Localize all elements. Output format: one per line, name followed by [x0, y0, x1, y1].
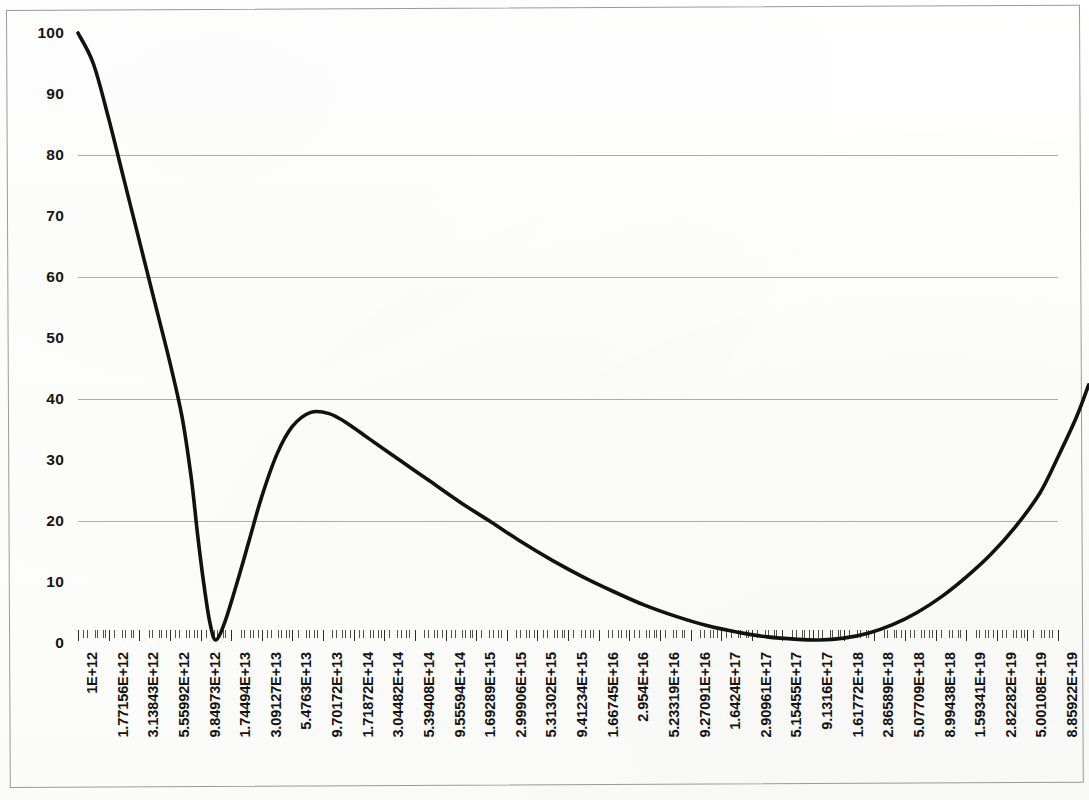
- x-tick-minor: [122, 630, 123, 638]
- x-tick-minor: [1049, 630, 1050, 638]
- x-tick-minor: [796, 630, 797, 638]
- x-tick-minor: [451, 630, 452, 638]
- x-tick-major: [78, 630, 79, 641]
- x-tick-minor: [179, 630, 180, 638]
- x-tick-minor: [748, 630, 749, 638]
- x-tick-minor: [914, 630, 915, 638]
- x-tick-minor: [621, 630, 622, 638]
- x-tick-label: 9.27091E+16: [697, 652, 713, 738]
- x-tick-major: [292, 630, 293, 641]
- x-tick-major: [966, 630, 967, 641]
- gridline-y-60: [78, 277, 1058, 278]
- y-tick-label-50: 50: [46, 329, 64, 347]
- x-tick-minor: [924, 630, 925, 638]
- x-tick-minor: [868, 630, 869, 638]
- x-tick-label: 1.77156E+12: [115, 652, 131, 738]
- x-tick-minor: [359, 630, 360, 638]
- x-tick-minor: [442, 630, 443, 638]
- x-tick-minor: [612, 630, 613, 638]
- gridline-y-40: [78, 399, 1058, 400]
- x-tick-major: [1058, 630, 1059, 641]
- x-tick-minor: [1006, 630, 1007, 638]
- x-tick-minor: [206, 630, 207, 638]
- x-tick-label: 9.55594E+14: [452, 652, 468, 738]
- x-tick-minor: [884, 630, 885, 638]
- x-tick-minor: [434, 630, 435, 638]
- x-tick-label: 8.85922E+19: [1064, 652, 1080, 738]
- x-tick-minor: [281, 630, 282, 638]
- x-tick-minor: [455, 630, 456, 638]
- x-tick-minor: [1033, 630, 1034, 638]
- x-tick-minor: [381, 630, 382, 638]
- x-tick-minor: [175, 630, 176, 638]
- x-tick-minor: [901, 630, 902, 638]
- x-tick-minor: [768, 630, 769, 638]
- x-tick-minor: [373, 630, 374, 638]
- x-tick-minor: [166, 630, 167, 638]
- x-tick-minor: [437, 630, 438, 638]
- x-tick-minor: [649, 630, 650, 638]
- x-tick-minor: [700, 630, 701, 638]
- x-tick-minor: [581, 630, 582, 638]
- x-tick-minor: [103, 630, 104, 638]
- x-tick-label: 2.99906E+15: [513, 652, 529, 738]
- x-tick-minor: [704, 630, 705, 638]
- x-tick-major: [782, 630, 783, 641]
- x-tick-label: 1E+12: [84, 652, 100, 694]
- x-tick-minor: [676, 630, 677, 638]
- x-tick-minor: [673, 630, 674, 638]
- x-tick-minor: [95, 630, 96, 638]
- x-tick-minor: [428, 630, 429, 638]
- x-tick-minor: [223, 630, 224, 638]
- x-tick-minor: [866, 630, 867, 638]
- x-tick-label: 3.09127E+13: [268, 652, 284, 738]
- x-tick-major: [323, 630, 324, 641]
- x-tick-label: 1.6424E+17: [727, 652, 743, 730]
- x-tick-major: [170, 630, 171, 641]
- x-tick-label: 2.86589E+18: [880, 652, 896, 738]
- x-tick-minor: [809, 630, 810, 638]
- x-tick-major: [384, 630, 385, 641]
- x-tick-minor: [626, 630, 627, 638]
- x-tick-minor: [332, 630, 333, 638]
- y-tick-label-70: 70: [46, 207, 64, 225]
- x-tick-minor: [684, 630, 685, 638]
- x-tick-minor: [654, 630, 655, 638]
- x-tick-minor: [258, 630, 259, 638]
- x-tick-minor: [585, 630, 586, 638]
- x-tick-minor: [520, 630, 521, 638]
- x-tick-label: 5.07709E+18: [911, 652, 927, 738]
- x-tick-minor: [481, 630, 482, 638]
- x-tick-minor: [894, 630, 895, 638]
- x-tick-minor: [740, 630, 741, 638]
- x-tick-major: [201, 630, 202, 641]
- x-tick-minor: [317, 630, 318, 638]
- x-tick-minor: [896, 630, 897, 638]
- x-tick-minor: [682, 630, 683, 638]
- x-tick-minor: [593, 630, 594, 638]
- x-tick-major: [874, 630, 875, 641]
- x-tick-minor: [639, 630, 640, 638]
- y-tick-label-10: 10: [46, 573, 64, 591]
- x-tick-label: 2.82282E+19: [1003, 652, 1019, 738]
- x-tick-minor: [289, 630, 290, 638]
- x-tick-major: [599, 630, 600, 641]
- x-tick-minor: [547, 630, 548, 638]
- y-axis: 0102030405060708090100: [18, 33, 64, 643]
- x-tick-minor: [857, 630, 858, 638]
- x-tick-minor: [985, 630, 986, 638]
- y-tick-label-80: 80: [46, 146, 64, 164]
- x-tick-minor: [309, 630, 310, 638]
- gridline-y-80: [78, 155, 1058, 156]
- x-tick-minor: [960, 630, 961, 638]
- x-tick-minor: [656, 630, 657, 638]
- x-tick-minor: [1024, 630, 1025, 638]
- x-tick-minor: [802, 630, 803, 638]
- x-tick-major: [997, 630, 998, 641]
- x-tick-minor: [225, 630, 226, 638]
- x-tick-major: [507, 630, 508, 641]
- x-tick-minor: [286, 630, 287, 638]
- x-tick-minor: [1052, 630, 1053, 638]
- x-tick-major: [476, 630, 477, 641]
- x-tick-major: [354, 630, 355, 641]
